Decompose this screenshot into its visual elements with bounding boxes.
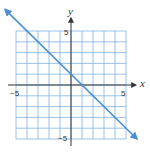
y-axis-label: y <box>67 5 73 17</box>
x-axis-label: x <box>139 77 145 89</box>
coordinate-plane: y x −5 5 5 −5 <box>0 0 150 153</box>
y-tick-min: −5 <box>58 134 68 143</box>
x-tick-max: 5 <box>121 89 126 98</box>
x-tick-min: −5 <box>10 89 20 98</box>
y-tick-max: 5 <box>64 28 69 37</box>
